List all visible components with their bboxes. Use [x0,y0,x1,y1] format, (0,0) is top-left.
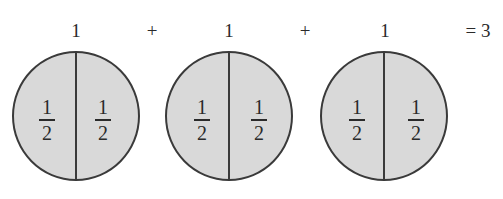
half-fraction: 1 2 [93,97,113,143]
circle-divider [228,53,230,179]
whole-circle-1: 1 2 1 2 [12,51,140,181]
plus-operator-1: + [147,21,158,40]
fraction-numerator: 1 [249,97,269,119]
fraction-denominator: 2 [406,121,426,143]
whole-circle-3: 1 2 1 2 [320,51,448,181]
half-fraction: 1 2 [347,97,367,143]
circle-divider [383,53,385,179]
term-label-1: 1 [71,21,81,40]
fraction-numerator: 1 [93,97,113,119]
term-label-2: 1 [224,21,234,40]
fraction-denominator: 2 [192,121,212,143]
term-label-3: 1 [380,21,390,40]
fraction-denominator: 2 [347,121,367,143]
fraction-denominator: 2 [249,121,269,143]
fraction-numerator: 1 [192,97,212,119]
whole-circle-2: 1 2 1 2 [165,51,293,181]
fraction-numerator: 1 [347,97,367,119]
fraction-denominator: 2 [93,121,113,143]
half-fraction: 1 2 [37,97,57,143]
plus-operator-2: + [300,21,311,40]
fraction-numerator: 1 [406,97,426,119]
fraction-numerator: 1 [37,97,57,119]
fraction-denominator: 2 [37,121,57,143]
half-fraction: 1 2 [249,97,269,143]
half-fraction: 1 2 [406,97,426,143]
circle-divider [75,53,77,179]
half-fraction: 1 2 [192,97,212,143]
result-label: = 3 [466,21,491,40]
